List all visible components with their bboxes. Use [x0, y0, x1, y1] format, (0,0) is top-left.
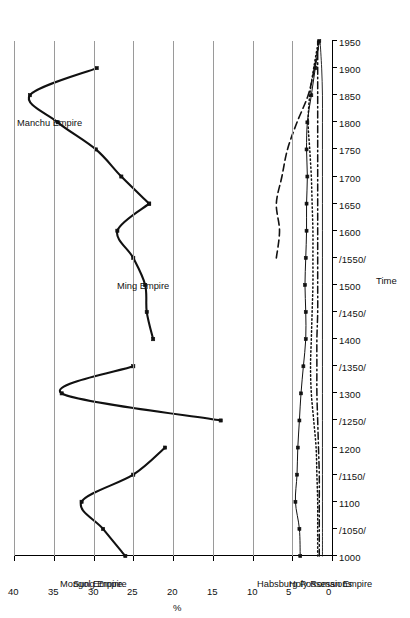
gridline	[133, 41, 134, 556]
x-axis-tick-label: 1000	[339, 552, 361, 563]
data-point-marker	[28, 94, 31, 97]
x-axis-tick-label: /1150/	[339, 471, 365, 482]
x-axis-tick-label: 1850	[339, 91, 361, 102]
x-axis-tick-label: 1750	[339, 145, 361, 156]
x-axis-tick	[332, 40, 337, 41]
data-point-marker	[148, 202, 151, 205]
data-point-marker	[294, 500, 297, 503]
y-axis-tick-label: 35	[48, 586, 59, 597]
series-habsburg-possessions	[276, 41, 319, 258]
x-axis-tick-label: /1250/	[339, 416, 366, 427]
x-axis-tick	[332, 257, 337, 258]
x-axis-tick-label: 1800	[339, 118, 361, 129]
gridline	[332, 41, 333, 556]
y-axis-tick-label: 40	[8, 586, 19, 597]
y-axis-tick	[94, 556, 95, 561]
data-point-marker	[299, 555, 302, 558]
x-axis-tick-label: /1450/	[339, 308, 366, 319]
x-axis-tick-label: 1600	[339, 227, 361, 238]
x-axis-tick	[332, 365, 337, 366]
y-axis-tick	[213, 556, 214, 561]
series-label-ming: Ming Empire	[117, 281, 169, 291]
gridline	[213, 41, 214, 556]
x-axis-tick-label: 1900	[339, 64, 361, 75]
x-axis-tick	[332, 284, 337, 285]
gridline	[94, 41, 95, 556]
series-label-sung: Sung Empire	[73, 579, 127, 589]
gridline	[173, 41, 174, 556]
page-caption-edge	[394, 0, 410, 618]
x-axis-tick	[332, 203, 337, 204]
x-axis-tick	[332, 474, 337, 475]
x-axis-tick-label: /1550/	[339, 254, 366, 265]
x-axis-tick	[332, 528, 337, 529]
data-point-marker	[101, 527, 104, 530]
x-axis-tick	[332, 148, 337, 149]
series-unlabelled-thin-solid-baseline-series	[320, 41, 322, 556]
y-axis-tick	[54, 556, 55, 561]
x-axis-tick	[332, 230, 337, 231]
x-axis-tick	[332, 94, 337, 95]
x-axis-tick-label: 1300	[339, 389, 361, 400]
data-point-marker	[304, 256, 307, 259]
x-axis-tick	[332, 176, 337, 177]
data-point-marker	[305, 229, 308, 232]
x-axis-tick-label: 1200	[339, 444, 361, 455]
data-point-marker	[298, 527, 301, 530]
series-label-holy-roman: Holy Roman Empire	[289, 579, 372, 589]
x-axis-tick	[332, 501, 337, 502]
data-point-marker	[95, 67, 98, 70]
data-point-marker	[304, 311, 307, 314]
data-point-marker	[304, 338, 307, 341]
rotated-page-wrapper: 1000/1050/1100/1150/1200/1250/1300/1350/…	[0, 0, 410, 618]
x-axis-tick	[332, 392, 337, 393]
data-point-marker	[163, 446, 166, 449]
x-axis-tick	[332, 447, 337, 448]
data-point-marker	[116, 229, 119, 232]
data-point-marker	[305, 202, 308, 205]
gridline	[14, 41, 15, 556]
data-point-marker	[80, 500, 83, 503]
data-point-marker	[145, 310, 148, 313]
data-point-marker	[296, 473, 299, 476]
y-axis-tick	[292, 556, 293, 561]
data-point-marker	[219, 419, 222, 422]
data-point-marker	[60, 392, 63, 395]
x-axis-tick	[332, 121, 337, 122]
data-point-marker	[120, 175, 123, 178]
data-point-marker	[94, 148, 97, 151]
data-point-marker	[152, 338, 155, 341]
data-point-marker	[306, 175, 309, 178]
data-point-marker	[305, 148, 308, 151]
x-axis-tick-label: 1700	[339, 173, 361, 184]
y-axis-tick-label: 25	[127, 586, 138, 597]
data-point-marker	[298, 419, 301, 422]
data-point-marker	[302, 365, 305, 368]
series-unlabelled-dotted-series	[308, 41, 318, 556]
gridline	[292, 41, 293, 556]
y-axis-tick	[332, 556, 333, 561]
series-label-manchu: Manchu Empire	[17, 118, 82, 128]
x-axis-tick-label: 1400	[339, 335, 361, 346]
x-axis-tick-label: 1100	[339, 498, 360, 509]
data-point-marker	[299, 392, 302, 395]
y-axis-tick	[253, 556, 254, 561]
y-axis-tick-label: 10	[247, 586, 258, 597]
y-axis-tick-label: 15	[207, 586, 218, 597]
x-axis-tick-label: /1350/	[339, 362, 366, 373]
series-mongol-empire	[60, 365, 222, 422]
data-point-marker	[124, 554, 127, 557]
x-axis-tick	[332, 338, 337, 339]
y-axis-tick	[173, 556, 174, 561]
chart-figure: 1000/1050/1100/1150/1200/1250/1300/1350/…	[0, 0, 410, 618]
x-axis-tick	[332, 67, 337, 68]
data-point-marker	[296, 446, 299, 449]
x-axis-tick-label: 1650	[339, 200, 361, 211]
x-axis-tick	[332, 311, 337, 312]
gridline	[253, 41, 254, 556]
x-axis-tick	[332, 419, 337, 420]
x-axis-tick-label: 1500	[339, 281, 361, 292]
y-axis-tick-label: 20	[167, 586, 178, 597]
x-axis-tick-label: 1950	[339, 37, 361, 48]
y-axis-title: %	[173, 602, 181, 613]
